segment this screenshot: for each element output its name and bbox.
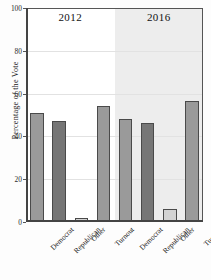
panel-title-2016: 2016 [115, 11, 204, 23]
y-tick-mark [23, 8, 26, 9]
axis-top [26, 8, 203, 9]
y-tick-mark [23, 136, 26, 137]
gridline [26, 51, 203, 52]
y-tick-label: 80 [0, 46, 22, 55]
axis-right [202, 8, 203, 222]
y-tick-mark [23, 222, 26, 223]
bar-chart: Percentage of the Vote 020406080100 2012… [0, 0, 211, 280]
bar-2016-democrat [119, 119, 133, 222]
x-axis-line [26, 220, 203, 222]
y-tick-label: 40 [0, 132, 22, 141]
panel-title-2012: 2012 [26, 11, 115, 23]
x-axis-label-2012-turnout: Turnout [113, 225, 136, 248]
bar-2012-turnout [97, 106, 111, 222]
y-tick-label: 100 [0, 4, 22, 13]
gridline [26, 94, 203, 95]
y-tick-mark [23, 179, 26, 180]
y-tick-label: 20 [0, 175, 22, 184]
y-tick-mark [23, 51, 26, 52]
bar-2016-turnout [185, 101, 199, 222]
x-axis-label-2016-turnout: Turnout [202, 225, 211, 248]
bar-2012-republican [52, 121, 66, 222]
bar-2012-democrat [30, 113, 44, 222]
y-axis-line [26, 8, 28, 222]
y-tick-mark [23, 94, 26, 95]
plot-area [26, 8, 203, 222]
y-tick-label: 0 [0, 218, 22, 227]
bar-2016-republican [141, 123, 155, 223]
y-tick-label: 60 [0, 89, 22, 98]
